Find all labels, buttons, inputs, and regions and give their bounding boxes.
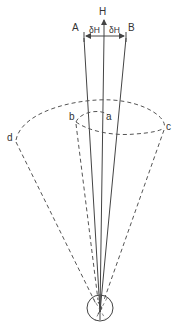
label-c: c	[166, 121, 171, 132]
label-d: d	[7, 132, 13, 143]
label-b: b	[69, 111, 75, 122]
label-B: B	[128, 22, 135, 33]
label-A: A	[72, 22, 79, 33]
label-H: H	[99, 6, 106, 17]
label-delta-h-right: δH	[109, 25, 120, 35]
line-H	[100, 36, 104, 312]
label-delta-h-left: δH	[89, 25, 100, 35]
line-B	[100, 38, 126, 312]
visual-field-diagram: H A B δH δH d b a c	[0, 0, 180, 332]
line-A	[84, 38, 100, 312]
dash-line-d	[16, 142, 96, 304]
dash-line-b	[76, 124, 98, 300]
outer-ellipse-top	[16, 100, 164, 140]
dash-line-c	[104, 130, 164, 300]
label-a: a	[106, 111, 112, 122]
